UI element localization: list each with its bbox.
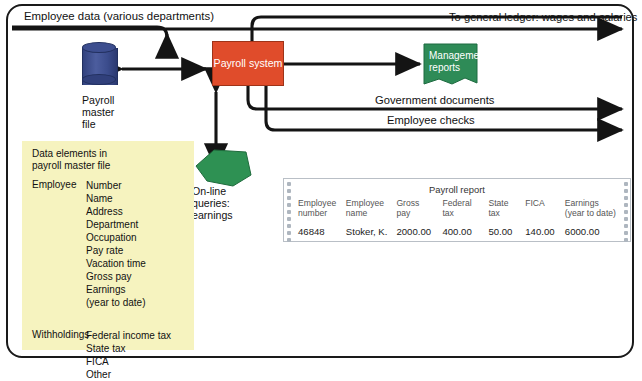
table-cell: 46848 bbox=[298, 219, 346, 237]
table-cell: 2000.00 bbox=[396, 219, 442, 237]
data-element-item: Federal income tax bbox=[86, 329, 171, 342]
payroll-report-table: Employee numberEmployee nameGross payFed… bbox=[298, 198, 620, 237]
table-column-header: Gross pay bbox=[396, 198, 442, 219]
pentagon-icon bbox=[196, 150, 251, 186]
data-element-item: Other bbox=[86, 368, 171, 381]
data-group-key-withholdings: Withholdings bbox=[32, 329, 89, 340]
data-group-key-employee: Employee bbox=[32, 179, 76, 190]
table-cell: 50.00 bbox=[488, 219, 525, 237]
table-column-header: Employee name bbox=[346, 198, 397, 219]
payroll-report-printout: Payroll report Employee numberEmployee n… bbox=[283, 178, 631, 242]
perforation-dot bbox=[287, 203, 291, 207]
table-cell: Stoker, K. bbox=[346, 219, 397, 237]
table-column-header: Earnings (year to date) bbox=[565, 198, 620, 219]
data-elements-heading: Data elements in payroll master file bbox=[32, 148, 110, 172]
data-element-item: Address bbox=[86, 205, 146, 218]
label-management-reports: Management reports bbox=[429, 50, 489, 73]
table-cell: 6000.00 bbox=[565, 219, 620, 237]
table-header-row: Employee numberEmployee nameGross payFed… bbox=[298, 198, 620, 219]
perforation-dot bbox=[624, 224, 628, 228]
perforation-dot bbox=[624, 210, 628, 214]
table-column-header: FICA bbox=[525, 198, 565, 219]
data-element-item: Name bbox=[86, 192, 146, 205]
perforation-dot bbox=[287, 238, 291, 242]
perforation-dot bbox=[624, 231, 628, 235]
table-row: 46848Stoker, K.2000.00400.0050.00140.006… bbox=[298, 219, 620, 237]
data-element-item: (year to date) bbox=[86, 296, 146, 309]
perforation-dot bbox=[287, 196, 291, 200]
data-element-item: Vacation time bbox=[86, 257, 146, 270]
table-column-header: Employee number bbox=[298, 198, 346, 219]
data-element-item: Earnings bbox=[86, 283, 146, 296]
label-online-queries: On-line queries: earnings bbox=[192, 185, 233, 221]
data-element-item: Occupation bbox=[86, 231, 146, 244]
data-group-values-withholdings: Federal income taxState taxFICAOther bbox=[86, 329, 171, 381]
perforation-dot bbox=[287, 210, 291, 214]
perforation-dot bbox=[624, 238, 628, 242]
data-group-values-employee: NumberNameAddressDepartmentOccupationPay… bbox=[86, 179, 146, 309]
perforation-dot bbox=[624, 217, 628, 221]
perforation-dot bbox=[624, 203, 628, 207]
table-column-header: State tax bbox=[488, 198, 525, 219]
perforation-dot bbox=[287, 231, 291, 235]
table-cell: 400.00 bbox=[442, 219, 488, 237]
perforation-dot bbox=[287, 217, 291, 221]
table-cell: 140.00 bbox=[525, 219, 565, 237]
perforation-dot bbox=[287, 224, 291, 228]
table-column-header: Federal tax bbox=[442, 198, 488, 219]
data-element-item: State tax bbox=[86, 342, 171, 355]
data-element-item: Pay rate bbox=[86, 244, 146, 257]
data-element-item: Gross pay bbox=[86, 270, 146, 283]
data-element-item: FICA bbox=[86, 355, 171, 368]
payroll-report-title: Payroll report bbox=[284, 184, 630, 195]
data-elements-panel: Data elements in payroll master file Emp… bbox=[22, 141, 194, 350]
perforation-dot bbox=[624, 196, 628, 200]
data-element-item: Department bbox=[86, 218, 146, 231]
data-element-item: Number bbox=[86, 179, 146, 192]
